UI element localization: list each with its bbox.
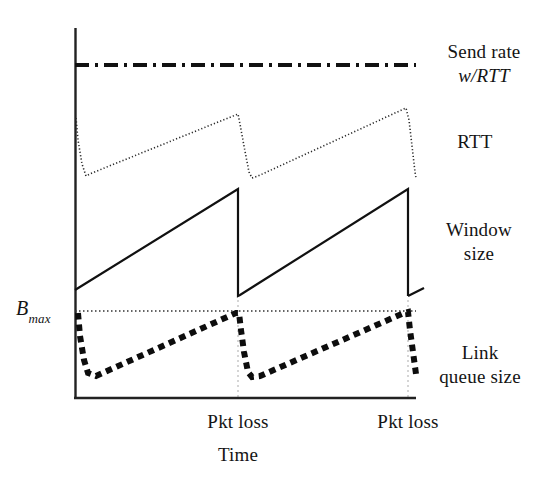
series-label-link-queue-size: Link queue size — [424, 341, 536, 389]
bmax-subscript: max — [28, 311, 50, 326]
rtt-curve — [76, 108, 416, 178]
queue-label-line1: Link — [462, 342, 499, 363]
x-axis-label-pkt-loss-2: Pkt loss — [356, 410, 460, 433]
series-label-rtt: RTT — [432, 130, 518, 154]
x-axis-label-pkt-loss-1: Pkt loss — [186, 410, 290, 433]
send-rate-label-line2: w/RTT — [432, 64, 536, 88]
send-rate-label-line1: Send rate — [447, 41, 520, 62]
tcp-sawtooth-figure: Send rate w/RTT RTT Window size Link que… — [0, 0, 536, 485]
series-label-send-rate: Send rate w/RTT — [432, 40, 536, 88]
window-label-line2: size — [432, 242, 526, 266]
rtt-label-text: RTT — [457, 131, 492, 152]
x-axis-title-time: Time — [186, 443, 290, 466]
bmax-base-symbol: B — [16, 297, 28, 319]
window-label-line1: Window — [446, 219, 512, 240]
y-axis-tick-label-bmax: Bmax — [16, 297, 51, 327]
window-size-curve — [75, 189, 408, 296]
queue-label-line2: queue size — [424, 365, 536, 389]
series-label-window-size: Window size — [432, 218, 526, 266]
window-size-curve-stub — [408, 288, 424, 296]
link-queue-size-curve — [78, 312, 416, 377]
